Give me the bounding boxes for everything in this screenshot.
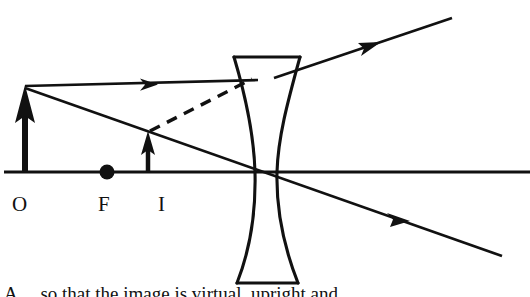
focal-point-dot — [100, 165, 115, 180]
parallel-ray-arrowhead — [140, 79, 158, 91]
lens-left-surface — [234, 57, 255, 283]
object-label: O — [12, 194, 28, 215]
center-ray-arrowhead — [387, 213, 410, 227]
diverging-lens — [234, 57, 300, 283]
parallel-incident-ray — [25, 79, 258, 91]
image-arrow — [141, 131, 155, 172]
refracted-ray-shaft — [274, 18, 452, 78]
ray-diagram-figure: O F I A ... so that the image is virtual… — [0, 0, 530, 297]
focal-point-label: F — [98, 194, 110, 215]
object-arrow — [15, 85, 35, 172]
ray-diagram-canvas — [0, 0, 530, 297]
virtual-ray-extension — [150, 79, 252, 131]
figure-caption: A ... so that the image is virtual, upri… — [4, 283, 530, 297]
lens-right-surface — [277, 57, 300, 283]
refracted-ray-upper — [274, 18, 452, 78]
parallel-ray-shaft — [25, 80, 258, 86]
image-label: I — [158, 194, 166, 215]
